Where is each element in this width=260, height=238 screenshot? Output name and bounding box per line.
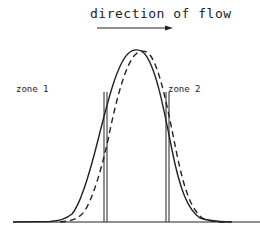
zone-2-marker — [166, 92, 169, 222]
flow-diagram: direction of flow zone 1 zone 2 — [0, 0, 260, 238]
zone-1-label: zone 1 — [16, 84, 49, 94]
solid-curve — [13, 50, 230, 222]
dashed-curve — [60, 51, 232, 222]
diagram-graphics — [0, 0, 260, 238]
diagram-title: direction of flow — [90, 6, 232, 21]
flow-arrow-icon — [97, 26, 173, 31]
zone-2-label: zone 2 — [168, 84, 201, 94]
